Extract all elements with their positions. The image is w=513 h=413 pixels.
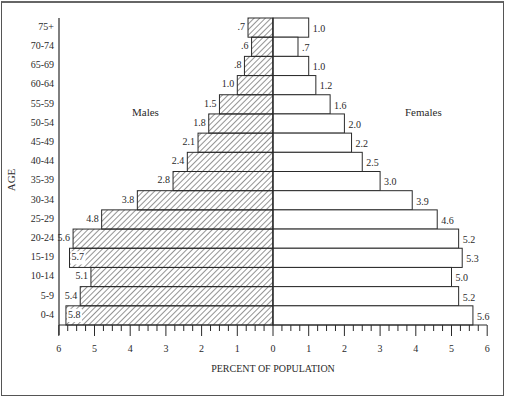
age-label: 25-29 — [31, 213, 54, 224]
age-label: 0-4 — [41, 309, 54, 320]
female-value-label: 5.2 — [463, 234, 476, 245]
female-bar — [273, 95, 330, 114]
male-bar — [187, 152, 273, 171]
male-value-label: 5.8 — [68, 309, 81, 320]
male-value-label: 2.8 — [158, 174, 171, 185]
x-tick-label: 2 — [199, 343, 204, 354]
female-bar — [273, 267, 452, 286]
female-value-label: 2.0 — [348, 119, 361, 130]
male-bar — [173, 172, 273, 191]
female-bar — [273, 248, 462, 267]
male-bar — [219, 95, 273, 114]
age-label: 70-74 — [31, 40, 54, 51]
female-bar — [273, 172, 380, 191]
female-value-label: 2.2 — [356, 138, 369, 149]
x-axis-title: PERCENT OF POPULATION — [211, 363, 335, 374]
female-bar — [273, 306, 473, 325]
age-label: 50-54 — [31, 117, 54, 128]
female-value-label: 5.6 — [477, 311, 490, 322]
male-bar — [244, 56, 273, 75]
female-bar — [273, 37, 298, 56]
age-label: 15-19 — [31, 251, 54, 262]
x-tick-label: 3 — [163, 343, 168, 354]
y-axis-title: AGE — [5, 168, 17, 191]
population-pyramid-chart: .71.0.6.7.81.01.01.21.51.61.82.02.12.22.… — [0, 0, 513, 413]
age-label: 60-64 — [31, 78, 54, 89]
x-tick-label: 6 — [56, 343, 61, 354]
female-value-label: 5.3 — [466, 253, 479, 264]
male-bar — [252, 37, 273, 56]
females-bars — [273, 18, 473, 325]
male-bar — [209, 114, 273, 133]
female-value-label: 1.0 — [313, 61, 326, 72]
female-value-label: 1.6 — [334, 100, 347, 111]
female-value-label: 4.6 — [441, 215, 454, 226]
male-value-label: 5.7 — [72, 251, 85, 262]
age-label: 30-34 — [31, 194, 54, 205]
male-value-label: 2.1 — [183, 136, 196, 147]
male-value-label: .7 — [238, 21, 246, 32]
x-tick-label: 6 — [485, 343, 490, 354]
x-tick-label: 4 — [413, 343, 418, 354]
male-value-label: 3.8 — [122, 194, 135, 205]
female-value-label: 1.2 — [320, 80, 333, 91]
age-label: 5-9 — [41, 290, 54, 301]
male-value-label: 1.8 — [193, 117, 206, 128]
female-value-label: 2.5 — [366, 157, 379, 168]
x-tick-label: 5 — [449, 343, 454, 354]
age-label: 20-24 — [31, 232, 54, 243]
male-bar — [70, 248, 273, 267]
female-value-label: 5.2 — [463, 292, 476, 303]
female-value-label: .7 — [302, 42, 310, 53]
female-bar — [273, 18, 309, 37]
female-bar — [273, 56, 309, 75]
x-tick-label: 4 — [128, 343, 133, 354]
male-value-label: 2.4 — [172, 155, 185, 166]
age-label: 40-44 — [31, 155, 54, 166]
male-bar — [73, 229, 273, 248]
female-value-label: 5.0 — [456, 272, 469, 283]
male-bar — [237, 76, 273, 95]
x-tick-label: 1 — [235, 343, 240, 354]
x-tick-labels: 6543210123456 — [56, 343, 489, 354]
male-value-label: 4.8 — [86, 213, 99, 224]
female-bar — [273, 287, 459, 306]
male-bar — [80, 287, 273, 306]
male-value-label: 5.1 — [75, 270, 88, 281]
female-bar — [273, 210, 437, 229]
female-bar — [273, 191, 412, 210]
female-bar — [273, 114, 344, 133]
male-value-label: .8 — [234, 59, 242, 70]
male-value-label: 5.4 — [65, 290, 78, 301]
females-legend-label: Females — [405, 106, 442, 118]
male-bar — [66, 306, 273, 325]
age-label: 75+ — [38, 21, 54, 32]
female-value-label: 1.0 — [313, 23, 326, 34]
male-value-label: 1.0 — [222, 78, 235, 89]
male-bar — [102, 210, 273, 229]
x-tick-label: 5 — [92, 343, 97, 354]
age-tick-labels: 75+70-7465-6960-6455-5950-5445-4940-4435… — [31, 21, 55, 320]
male-bar — [91, 267, 273, 286]
age-label: 45-49 — [31, 136, 54, 147]
female-value-label: 3.0 — [384, 176, 397, 187]
male-value-label: .6 — [241, 40, 249, 51]
x-tick-label: 2 — [342, 343, 347, 354]
female-bar — [273, 133, 352, 152]
x-tick-label: 1 — [306, 343, 311, 354]
age-label: 10-14 — [31, 270, 54, 281]
female-value-label: 3.9 — [416, 196, 429, 207]
males-bars — [66, 18, 273, 325]
age-label: 65-69 — [31, 59, 54, 70]
male-bar — [137, 191, 273, 210]
female-bar — [273, 76, 316, 95]
male-value-label: 1.5 — [204, 98, 217, 109]
male-bar — [248, 18, 273, 37]
female-bar — [273, 229, 459, 248]
males-legend-label: Males — [132, 106, 159, 118]
age-label: 35-39 — [31, 174, 54, 185]
x-tick-label: 3 — [378, 343, 383, 354]
x-tick-label: 0 — [271, 343, 276, 354]
age-label: 55-59 — [31, 98, 54, 109]
male-bar — [198, 133, 273, 152]
